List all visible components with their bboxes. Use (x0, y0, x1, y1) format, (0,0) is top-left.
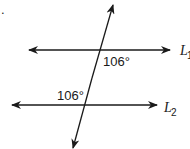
parallel-lines-diagram: . L 1 L 2 106° 106° (0, 0, 190, 149)
item-marker: . (1, 2, 5, 17)
angle-label-lower: 106° (57, 88, 84, 103)
label-l1-subscript: 1 (187, 50, 190, 61)
angle-label-upper: 106° (103, 54, 130, 69)
label-l2-subscript: 2 (171, 107, 177, 118)
